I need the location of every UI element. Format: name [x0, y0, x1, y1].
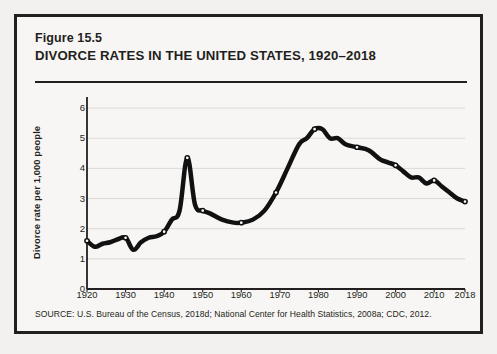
- data-point-marker: [123, 236, 127, 240]
- data-point-marker: [274, 190, 278, 194]
- data-point-markers: [85, 127, 467, 243]
- x-tick-label: 1940: [154, 289, 175, 300]
- figure-title: DIVORCE RATES IN THE UNITED STATES, 1920…: [35, 48, 376, 63]
- data-point-marker: [432, 178, 436, 182]
- figure-number: Figure 15.5: [35, 31, 102, 45]
- x-tick-label: 1980: [308, 289, 329, 300]
- data-point-marker: [185, 156, 189, 160]
- x-tick-label: 1970: [269, 289, 290, 300]
- x-tick-label: 1960: [231, 289, 252, 300]
- x-tick-label: 2000: [385, 289, 406, 300]
- source-note: SOURCE: U.S. Bureau of the Census, 2018d…: [35, 309, 432, 319]
- x-tick-label: 1990: [347, 289, 368, 300]
- x-tick-label: 1950: [192, 289, 213, 300]
- data-point-marker: [85, 239, 89, 243]
- figure-card: Figure 15.5 DIVORCE RATES IN THE UNITED …: [14, 14, 483, 334]
- data-point-marker: [239, 221, 243, 225]
- x-tick-label: 1930: [115, 289, 136, 300]
- title-divider: [35, 81, 467, 83]
- data-point-marker: [393, 163, 397, 167]
- data-point-marker: [463, 199, 467, 203]
- divorce-rate-line: [87, 128, 465, 250]
- data-point-marker: [312, 127, 316, 131]
- figure-inner: Figure 15.5 DIVORCE RATES IN THE UNITED …: [17, 17, 480, 331]
- data-point-marker: [201, 208, 205, 212]
- data-point-marker: [162, 230, 166, 234]
- chart-plot-area: Divorce rate per 1,000 people 0123456 19…: [35, 93, 468, 305]
- x-tick-label: 2010: [424, 289, 445, 300]
- grid-lines: [87, 108, 465, 289]
- chart-canvas: [35, 93, 468, 305]
- data-point-marker: [355, 145, 359, 149]
- x-tick-label: 2018: [455, 289, 476, 300]
- x-tick-label: 1920: [77, 289, 98, 300]
- x-axis-tick-labels: 1920193019401950196019701980199020002010…: [35, 289, 468, 307]
